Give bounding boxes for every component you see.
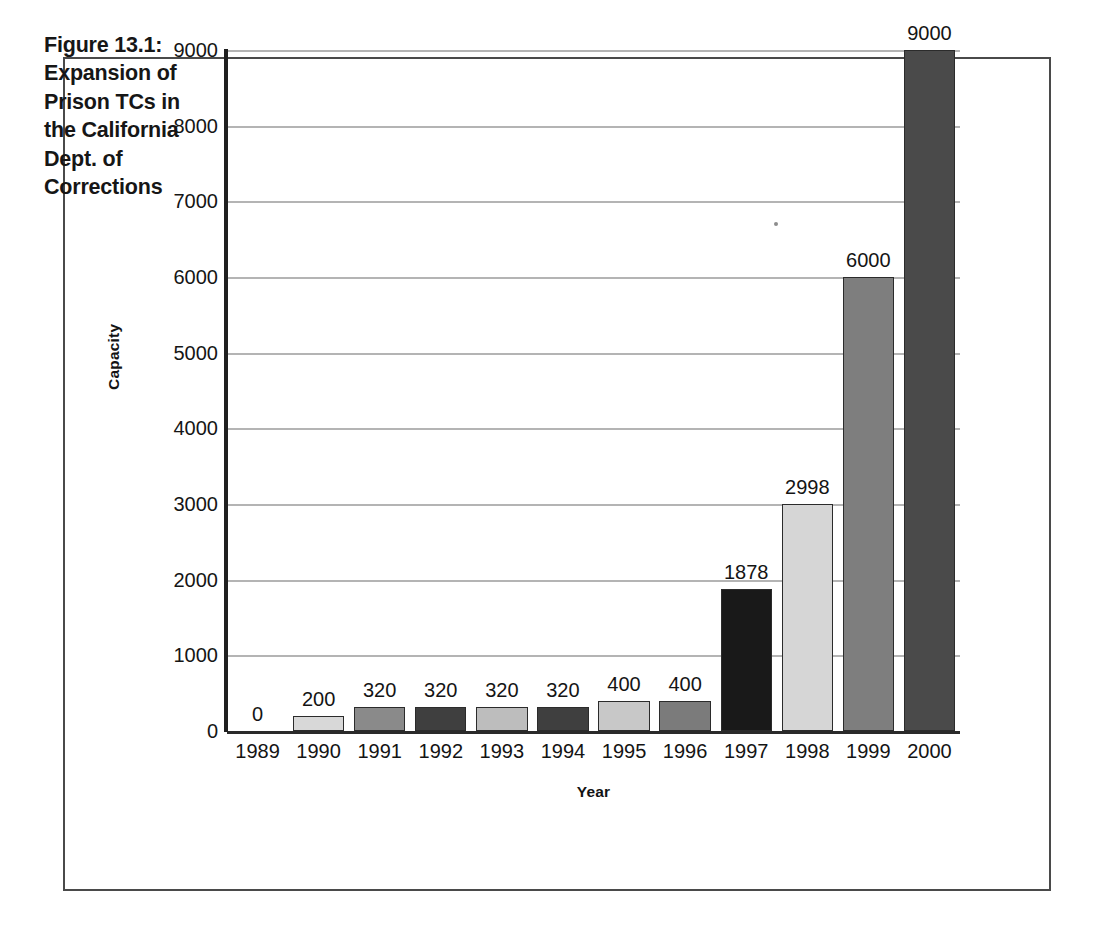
- y-tick-label: 1000: [174, 644, 219, 667]
- bar-group: 200: [288, 50, 349, 731]
- y-tick-label: 4000: [174, 417, 219, 440]
- bar[interactable]: [537, 707, 588, 731]
- x-tick-label: 1993: [471, 740, 532, 763]
- y-tick-label: 2000: [174, 568, 219, 591]
- bar-series: 02003203203203204004001878299860009000: [227, 50, 960, 731]
- x-tick-label: 2000: [899, 740, 960, 763]
- bar-value-label: 320: [349, 679, 410, 702]
- bar[interactable]: [721, 589, 772, 731]
- bar-group: 320: [349, 50, 410, 731]
- bar-value-label: 6000: [838, 249, 899, 272]
- bar-value-label: 200: [288, 688, 349, 711]
- bar-group: 2998: [777, 50, 838, 731]
- bar-value-label: 0: [227, 703, 288, 726]
- bar[interactable]: [293, 716, 344, 731]
- bar-group: 9000: [899, 50, 960, 731]
- bar-group: 6000: [838, 50, 899, 731]
- bar[interactable]: [904, 50, 955, 731]
- x-tick-label: 1996: [655, 740, 716, 763]
- x-tick-label: 1997: [716, 740, 777, 763]
- bar-group: 400: [655, 50, 716, 731]
- x-tick-label: 1995: [594, 740, 655, 763]
- bar[interactable]: [782, 504, 833, 731]
- y-tick-label: 0: [207, 720, 218, 743]
- bar[interactable]: [415, 707, 466, 731]
- x-tick-label: 1999: [838, 740, 899, 763]
- bar-group: 0: [227, 50, 288, 731]
- y-tick-label: 6000: [174, 266, 219, 289]
- bar-value-label: 9000: [899, 22, 960, 45]
- y-tick-label: 8000: [174, 114, 219, 137]
- x-tick-label: 1992: [410, 740, 471, 763]
- bar-group: 320: [410, 50, 471, 731]
- y-tick-label: 9000: [174, 39, 219, 62]
- axis-baseline: [227, 731, 960, 734]
- bar-value-label: 1878: [716, 561, 777, 584]
- scan-artifact-speck: [774, 222, 778, 226]
- bar[interactable]: [659, 701, 710, 731]
- bar-value-label: 320: [410, 679, 471, 702]
- y-tick-label: 7000: [174, 190, 219, 213]
- x-tick-label: 1991: [349, 740, 410, 763]
- x-axis-title: Year: [227, 783, 960, 801]
- x-tick-label: 1989: [227, 740, 288, 763]
- bar-group: 1878: [716, 50, 777, 731]
- bar-value-label: 2998: [777, 476, 838, 499]
- bar-group: 320: [532, 50, 593, 731]
- plot-area: 02003203203203204004001878299860009000: [227, 50, 960, 731]
- y-axis-title: Capacity: [105, 324, 123, 390]
- y-tick-label: 3000: [174, 493, 219, 516]
- x-tick-label: 1990: [288, 740, 349, 763]
- bar-value-label: 400: [655, 673, 716, 696]
- x-axis-tick-labels: 1989199019911992199319941995199619971998…: [227, 740, 960, 770]
- bar[interactable]: [476, 707, 527, 731]
- bar[interactable]: [843, 277, 894, 731]
- bar-value-label: 320: [532, 679, 593, 702]
- y-axis-tick-labels: 0100020003000400050006000700080009000: [138, 50, 218, 731]
- bar-value-label: 320: [471, 679, 532, 702]
- x-tick-label: 1998: [777, 740, 838, 763]
- bar[interactable]: [598, 701, 649, 731]
- bar-group: 400: [594, 50, 655, 731]
- bar-value-label: 400: [594, 673, 655, 696]
- x-tick-label: 1994: [532, 740, 593, 763]
- bar-group: 320: [471, 50, 532, 731]
- bar[interactable]: [354, 707, 405, 731]
- y-tick-label: 5000: [174, 341, 219, 364]
